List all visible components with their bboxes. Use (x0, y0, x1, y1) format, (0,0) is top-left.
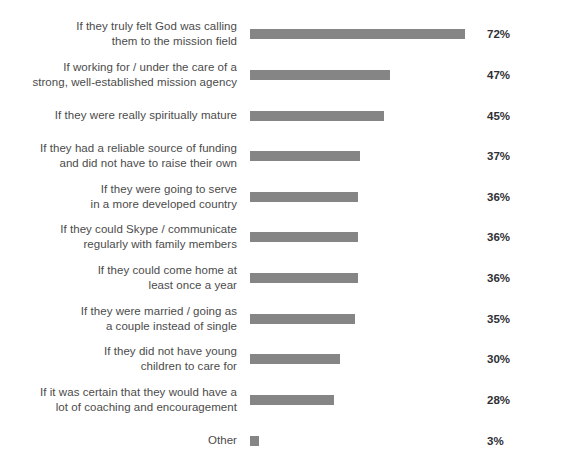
bar (250, 314, 355, 324)
bar (250, 354, 340, 364)
value-label: 37% (487, 150, 510, 162)
bar-track: 47% (250, 56, 563, 94)
bar-track: 3% (250, 422, 563, 460)
bar-track: 35% (250, 300, 563, 338)
chart-row: If they were really spiritually mature45… (0, 97, 563, 135)
bar (250, 70, 390, 80)
bar-track: 36% (250, 218, 563, 256)
bar-track: 28% (250, 381, 563, 419)
category-label: If they had a reliable source of funding… (0, 141, 250, 171)
bar (250, 192, 358, 202)
bar-track: 36% (250, 178, 563, 216)
horizontal-bar-chart: If they truly felt God was callingthem t… (0, 0, 563, 471)
value-label: 45% (487, 110, 510, 122)
bar (250, 436, 259, 446)
bar-track: 36% (250, 259, 563, 297)
value-label: 3% (487, 435, 504, 447)
chart-row: If they could come home atleast once a y… (0, 259, 563, 297)
category-label: If they did not have youngchildren to ca… (0, 344, 250, 374)
bar-track: 72% (250, 15, 563, 53)
value-label: 72% (487, 28, 510, 40)
chart-row: If they could Skype / communicateregular… (0, 218, 563, 256)
chart-row: If working for / under the care of astro… (0, 56, 563, 94)
category-label: If they were going to servein a more dev… (0, 182, 250, 212)
chart-row: If they had a reliable source of funding… (0, 137, 563, 175)
chart-row: If it was certain that they would have a… (0, 381, 563, 419)
bar (250, 273, 358, 283)
bar (250, 395, 334, 405)
category-label: If they truly felt God was callingthem t… (0, 19, 250, 49)
chart-row: If they truly felt God was callingthem t… (0, 15, 563, 53)
category-label: If they were married / going asa couple … (0, 304, 250, 334)
bar-track: 37% (250, 137, 563, 175)
category-label: If it was certain that they would have a… (0, 385, 250, 415)
chart-row: If they did not have youngchildren to ca… (0, 340, 563, 378)
bar (250, 111, 384, 121)
bar (250, 151, 360, 161)
value-label: 36% (487, 231, 510, 243)
bar (250, 29, 465, 39)
value-label: 35% (487, 313, 510, 325)
category-label: Other (0, 433, 250, 448)
value-label: 36% (487, 191, 510, 203)
value-label: 30% (487, 353, 510, 365)
bar-track: 30% (250, 340, 563, 378)
category-label: If they were really spiritually mature (0, 108, 250, 123)
value-label: 36% (487, 272, 510, 284)
bar (250, 232, 358, 242)
chart-row: If they were married / going asa couple … (0, 300, 563, 338)
category-label: If they could Skype / communicateregular… (0, 222, 250, 252)
value-label: 47% (487, 69, 510, 81)
value-label: 28% (487, 394, 510, 406)
bar-track: 45% (250, 97, 563, 135)
category-label: If working for / under the care of astro… (0, 60, 250, 90)
category-label: If they could come home atleast once a y… (0, 263, 250, 293)
chart-row: If they were going to servein a more dev… (0, 178, 563, 216)
chart-row: Other3% (0, 422, 563, 460)
